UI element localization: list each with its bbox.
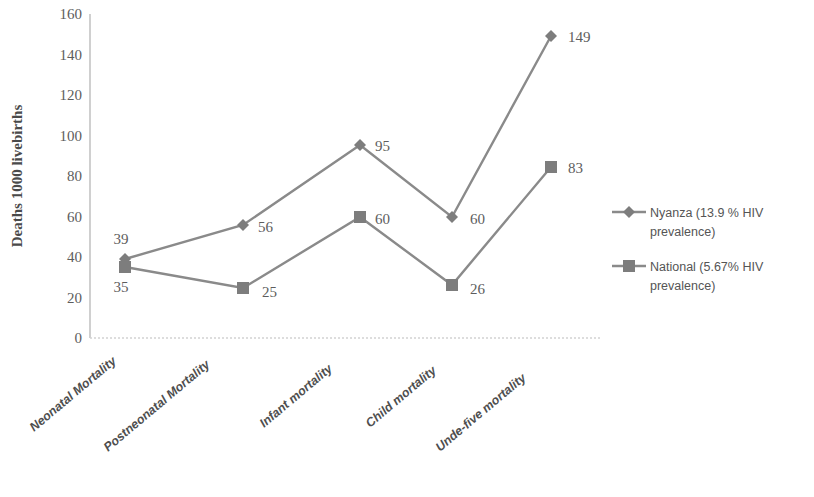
marker-square-underfive (545, 161, 557, 173)
series-markers-national (119, 161, 557, 294)
data-labels-nyanza: 39 56 95 60 149 (114, 29, 591, 247)
data-label-nyanza-underfive: 149 (568, 29, 591, 45)
y-axis-title: Deaths 1000 livebirths (9, 105, 25, 248)
chart-figure: Deaths 1000 livebirths 0 20 40 60 80 100… (0, 0, 814, 497)
x-label-neonatal-mortality: Neonatal Mortality (27, 353, 120, 434)
data-label-nyanza-postneonatal: 56 (258, 219, 274, 235)
data-labels-national: 35 25 60 26 83 (114, 160, 584, 300)
data-label-national-child: 26 (470, 281, 486, 297)
data-label-nyanza-neonatal: 39 (114, 231, 129, 247)
chart-legend: Nyanza (13.9 % HIV prevalence) National … (612, 206, 764, 293)
marker-square-neonatal (119, 261, 131, 273)
y-tick-160: 160 (60, 6, 83, 22)
legend-label-national-line2: prevalence) (650, 279, 715, 293)
x-label-child-mortality: Child mortality (363, 363, 440, 431)
marker-diamond-underfive (545, 30, 557, 42)
series-line-nyanza (125, 36, 551, 259)
legend-label-national-line1: National (5.67% HIV (650, 260, 764, 274)
line-chart: Deaths 1000 livebirths 0 20 40 60 80 100… (0, 0, 814, 497)
y-tick-120: 120 (60, 87, 83, 103)
x-label-infant-mortality: Infant mortality (257, 361, 336, 430)
x-axis-category-labels: Neonatal Mortality Postneonatal Mortalit… (27, 353, 530, 454)
y-tick-0: 0 (75, 330, 83, 346)
legend-marker-square-icon (623, 260, 635, 272)
legend-item-nyanza[interactable]: Nyanza (13.9 % HIV prevalence) (612, 206, 764, 239)
marker-square-child (446, 279, 458, 291)
data-label-national-neonatal: 35 (114, 279, 129, 295)
x-label-postneonatal-mortality: Postneonatal Mortality (101, 357, 213, 455)
x-label-underfive-mortality: Unde-five mortality (433, 370, 530, 454)
legend-marker-diamond-icon (623, 206, 635, 218)
y-tick-40: 40 (67, 249, 82, 265)
marker-square-infant (354, 211, 366, 223)
y-axis-tick-labels: 0 20 40 60 80 100 120 140 160 (60, 6, 83, 346)
y-tick-80: 80 (67, 168, 82, 184)
data-label-national-underfive: 83 (568, 160, 583, 176)
y-tick-140: 140 (60, 47, 83, 63)
data-label-nyanza-child: 60 (470, 211, 485, 227)
data-label-nyanza-infant: 95 (375, 138, 390, 154)
y-tick-20: 20 (67, 290, 82, 306)
data-label-national-infant: 60 (375, 211, 390, 227)
legend-label-nyanza-line2: prevalence) (650, 225, 715, 239)
legend-item-national[interactable]: National (5.67% HIV prevalence) (612, 260, 764, 293)
marker-square-postneonatal (237, 282, 249, 294)
data-label-national-postneonatal: 25 (262, 284, 277, 300)
legend-label-nyanza-line1: Nyanza (13.9 % HIV (650, 206, 764, 220)
y-tick-100: 100 (60, 128, 83, 144)
y-tick-60: 60 (67, 209, 82, 225)
series-line-national (125, 167, 551, 288)
